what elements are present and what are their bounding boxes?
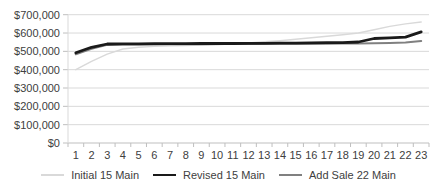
- svg-text:2: 2: [88, 149, 94, 161]
- svg-text:19: 19: [352, 149, 364, 161]
- svg-text:10: 10: [211, 149, 223, 161]
- svg-text:21: 21: [384, 149, 396, 161]
- svg-text:$400,000: $400,000: [14, 64, 60, 76]
- svg-text:5: 5: [136, 149, 142, 161]
- svg-text:$100,000: $100,000: [14, 119, 60, 131]
- svg-text:23: 23: [415, 149, 427, 161]
- line-swatch-icon: [279, 174, 302, 176]
- svg-text:13: 13: [258, 149, 270, 161]
- svg-text:6: 6: [151, 149, 157, 161]
- legend-item-add-sale-22-main: Add Sale 22 Main: [279, 168, 396, 182]
- svg-text:14: 14: [274, 149, 286, 161]
- line-swatch-icon: [41, 174, 64, 176]
- legend-label: Add Sale 22 Main: [309, 168, 396, 182]
- chart-legend: Initial 15 Main Revised 15 Main Add Sale…: [0, 168, 437, 182]
- svg-text:16: 16: [305, 149, 317, 161]
- svg-text:11: 11: [227, 149, 238, 161]
- svg-text:8: 8: [183, 149, 189, 161]
- svg-text:$0: $0: [48, 137, 60, 149]
- svg-text:17: 17: [321, 149, 333, 161]
- svg-text:4: 4: [120, 149, 126, 161]
- svg-text:1: 1: [73, 149, 79, 161]
- legend-label: Initial 15 Main: [71, 168, 139, 182]
- legend-item-initial-15-main: Initial 15 Main: [41, 168, 139, 182]
- svg-text:7: 7: [167, 149, 173, 161]
- legend-label: Revised 15 Main: [183, 168, 265, 182]
- svg-text:9: 9: [198, 149, 204, 161]
- svg-text:22: 22: [399, 149, 411, 161]
- line-swatch-icon: [153, 174, 176, 177]
- svg-text:20: 20: [368, 149, 380, 161]
- svg-text:$300,000: $300,000: [14, 82, 60, 94]
- svg-text:18: 18: [337, 149, 349, 161]
- svg-text:15: 15: [289, 149, 301, 161]
- svg-text:$600,000: $600,000: [14, 27, 60, 39]
- svg-text:$700,000: $700,000: [14, 9, 60, 21]
- svg-text:12: 12: [242, 149, 254, 161]
- chart-card: $0$100,000$200,000$300,000$400,000$500,0…: [0, 0, 437, 194]
- legend-item-revised-15-main: Revised 15 Main: [153, 168, 265, 182]
- svg-text:$500,000: $500,000: [14, 45, 60, 57]
- svg-text:$200,000: $200,000: [14, 100, 60, 112]
- line-chart: $0$100,000$200,000$300,000$400,000$500,0…: [0, 0, 437, 166]
- svg-text:3: 3: [104, 149, 110, 161]
